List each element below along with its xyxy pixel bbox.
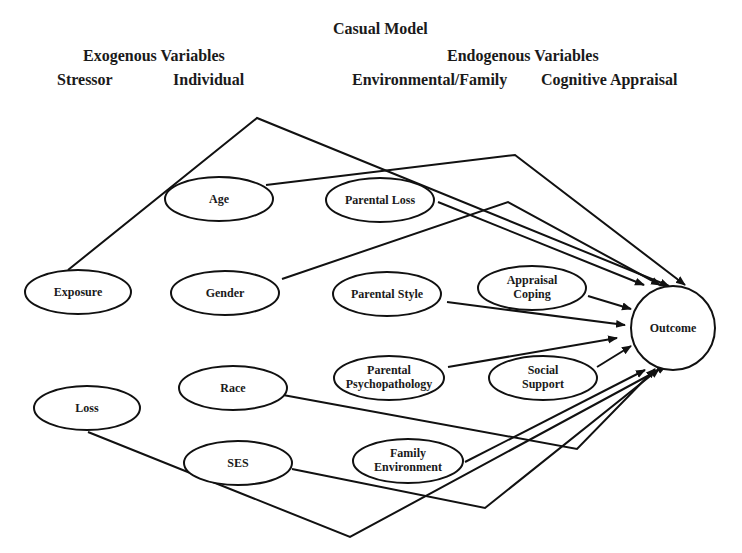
node-family-environment: Family Environment [353, 439, 463, 483]
node-label: Loss [75, 401, 99, 415]
node-loss: Loss [34, 386, 140, 430]
node-label-line-1: Parental [367, 363, 411, 377]
node-exposure: Exposure [25, 270, 131, 314]
node-age: Age [165, 177, 273, 221]
node-label-line-1: Appraisal [507, 273, 558, 287]
node-label: Race [220, 381, 246, 395]
node-label-line-2: Psychopathology [346, 377, 433, 391]
node-parental-psychopathology: Parental Psychopathology [334, 356, 444, 400]
node-label: Age [209, 192, 230, 206]
node-label-line-1: Social [528, 363, 559, 377]
node-ses: SES [184, 441, 292, 485]
edge-appraisal-coping-outcome [588, 296, 631, 309]
node-parental-loss: Parental Loss [326, 178, 434, 222]
node-label: Exposure [54, 285, 103, 299]
node-outcome: Outcome [631, 286, 715, 370]
node-label: Gender [206, 286, 245, 300]
node-social-support: Social Support [489, 356, 597, 400]
edge-age-outcome [266, 155, 685, 285]
node-label: Outcome [650, 321, 697, 335]
node-appraisal-coping: Appraisal Coping [478, 266, 586, 310]
node-parental-style: Parental Style [333, 272, 441, 316]
node-label: SES [227, 456, 249, 470]
node-label: Parental Loss [345, 193, 415, 207]
node-label: Parental Style [351, 287, 424, 301]
node-race: Race [179, 366, 287, 410]
edge-social-support-outcome [597, 346, 631, 367]
node-gender: Gender [171, 271, 279, 315]
node-label-line-2: Environment [374, 460, 442, 474]
node-label-line-2: Support [522, 377, 564, 391]
node-label-line-2: Coping [513, 287, 550, 301]
causal-diagram: Age Parental Loss Exposure Gender Parent… [0, 0, 742, 553]
node-label-line-1: Family [390, 446, 426, 460]
